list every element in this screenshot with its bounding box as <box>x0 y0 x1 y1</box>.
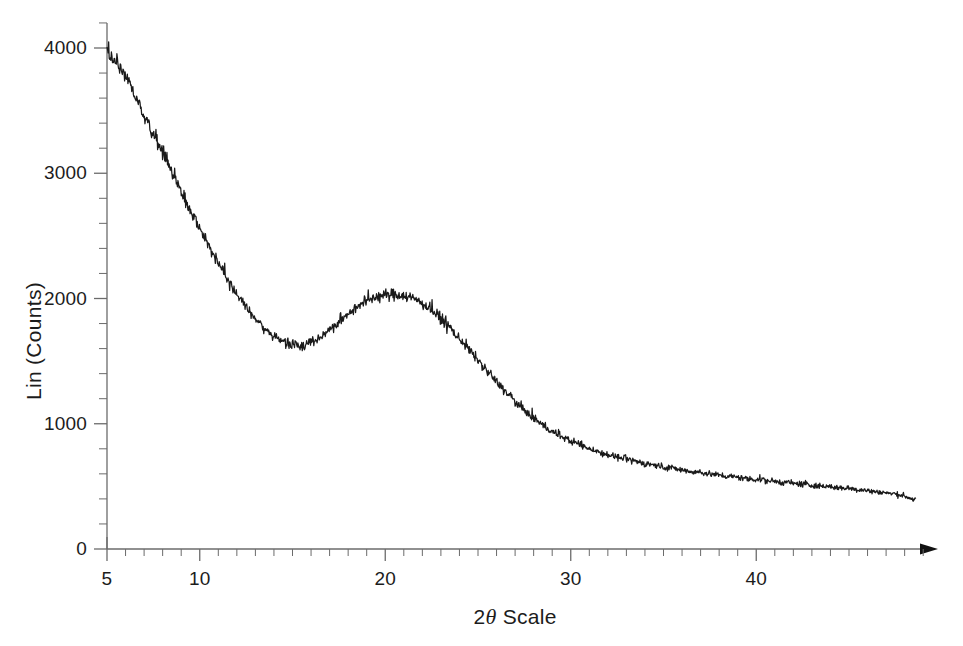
xrd-chart-figure: 01000200030004000 510203040 Lin (Counts)… <box>0 0 963 646</box>
theta-symbol: θ <box>485 604 496 629</box>
y-axis-tick-label: 1000 <box>0 413 87 435</box>
x-axis-tick-label: 20 <box>374 568 396 590</box>
diffraction-trace <box>107 42 916 501</box>
axes-group <box>94 23 938 561</box>
y-axis-tick-label: 3000 <box>0 162 87 184</box>
y-axis-title: Lin (Counts) <box>22 282 46 400</box>
x-axis-title: 2θ Scale <box>473 604 556 630</box>
xrd-plot-canvas <box>0 0 963 646</box>
diffraction-trace-group <box>107 42 916 501</box>
y-axis-tick-label: 0 <box>0 538 87 560</box>
x-axis-tick-label: 40 <box>745 568 767 590</box>
x-axis-title-prefix: 2 <box>473 605 485 628</box>
x-axis-tick-label: 30 <box>560 568 582 590</box>
x-axis-tick-label: 5 <box>102 568 113 590</box>
y-axis-tick-label: 4000 <box>0 37 87 59</box>
x-axis-tick-label: 10 <box>189 568 211 590</box>
x-axis-title-suffix: Scale <box>497 605 557 628</box>
